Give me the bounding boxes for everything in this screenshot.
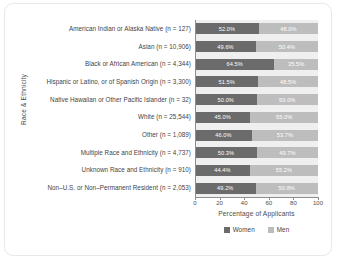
bar-segment-women[interactable]: 52.0% (195, 23, 259, 34)
bar-segment-men[interactable]: 50.4% (256, 41, 318, 52)
bar-segment-men[interactable]: 48.0% (259, 23, 318, 34)
bar-segment-women[interactable]: 50.3% (195, 147, 257, 158)
y-axis-line (195, 20, 196, 197)
bar-row[interactable]: 51.5%48.5% (195, 76, 318, 87)
category-label: Native Hawaiian or Other Pacific Islande… (17, 96, 191, 103)
bar-value-label: 53.7% (277, 132, 293, 138)
bar-segment-men[interactable]: 35.5% (274, 59, 318, 70)
category-label: Non–U.S. or Non–Permanent Resident (n = … (17, 184, 191, 191)
bar-row[interactable]: 46.0%53.7% (195, 130, 318, 141)
legend-item[interactable]: Men (268, 226, 290, 233)
bar-value-label: 50.3% (218, 150, 234, 156)
bar-row[interactable]: 52.0%48.0% (195, 23, 318, 34)
bar-value-label: 50.4% (279, 44, 295, 50)
bar-segment-women[interactable]: 44.4% (195, 165, 250, 176)
bar-row[interactable]: 50.3%49.7% (195, 147, 318, 158)
chart-card: Race & Ethnicity American Indian or Alas… (4, 3, 332, 256)
bar-value-label: 45.0% (214, 114, 230, 120)
bar-value-label: 50.8% (279, 185, 295, 191)
category-axis-labels: American Indian or Alaska Native (n = 12… (17, 20, 191, 197)
category-label: Hispanic or Latino, or of Spanish Origin… (17, 78, 191, 85)
bar-segment-women[interactable]: 46.0% (195, 130, 252, 141)
legend-item[interactable]: Women (224, 226, 255, 233)
category-label: Other (n = 1,089) (17, 131, 191, 138)
bar-row[interactable]: 50.0%50.0% (195, 94, 318, 105)
x-axis-tick-label: 60 (259, 200, 279, 206)
bar-value-label: 49.6% (217, 44, 233, 50)
bar-segment-men[interactable]: 49.7% (257, 147, 318, 158)
category-label: Unknown Race and Ethnicity (n = 910) (17, 166, 191, 173)
category-label: White (n = 25,544) (17, 113, 191, 120)
category-label: American Indian or Alaska Native (n = 12… (17, 25, 191, 32)
legend-label: Men (277, 226, 290, 233)
category-label: Asian (n = 10,906) (17, 43, 191, 50)
bar-value-label: 55.2% (276, 167, 292, 173)
bar-segment-women[interactable]: 64.5% (195, 59, 274, 70)
bar-value-label: 49.2% (217, 185, 233, 191)
x-axis-tick-label: 100 (308, 200, 328, 206)
bar-segment-men[interactable]: 48.5% (258, 76, 318, 87)
bar-segment-women[interactable]: 51.5% (195, 76, 258, 87)
bar-value-label: 52.0% (219, 26, 235, 32)
bar-value-label: 48.5% (280, 79, 296, 85)
bar-row[interactable]: 44.4%55.2% (195, 165, 318, 176)
bar-value-label: 64.5% (226, 61, 242, 67)
chart-figure: Race & Ethnicity American Indian or Alas… (5, 4, 333, 257)
bar-value-label: 49.7% (279, 150, 295, 156)
bar-value-label: 50.0% (218, 97, 234, 103)
bar-segment-women[interactable]: 50.0% (195, 94, 257, 105)
bar-row[interactable]: 64.5%35.5% (195, 59, 318, 70)
bar-value-label: 55.0% (276, 114, 292, 120)
plot-panel: 52.0%48.0%49.6%50.4%64.5%35.5%51.5%48.5%… (195, 20, 318, 197)
bar-value-label: 44.4% (214, 167, 230, 173)
legend-label: Women (233, 226, 255, 233)
bar-segment-men[interactable]: 55.0% (250, 112, 318, 123)
category-label: Multiple Race and Ethnicity (n = 4,737) (17, 149, 191, 156)
bar-segment-men[interactable]: 50.0% (257, 94, 319, 105)
bar-value-label: 46.0% (215, 132, 231, 138)
x-axis-tick-label: 0 (185, 200, 205, 206)
legend-swatch-icon (268, 227, 274, 233)
x-axis-tick-label: 80 (283, 200, 303, 206)
bar-value-label: 51.5% (218, 79, 234, 85)
x-axis-title: Percentage of Applicants (195, 210, 318, 217)
bar-segment-women[interactable]: 49.6% (195, 41, 256, 52)
bar-segment-men[interactable]: 50.8% (256, 183, 318, 194)
bar-value-label: 48.0% (280, 26, 296, 32)
legend-swatch-icon (224, 227, 230, 233)
chart-legend: WomenMen (195, 226, 318, 233)
x-axis-tick-label: 40 (234, 200, 254, 206)
bar-segment-men[interactable]: 53.7% (252, 130, 318, 141)
bar-row[interactable]: 45.0%55.0% (195, 112, 318, 123)
bar-segment-men[interactable]: 55.2% (250, 165, 318, 176)
bar-row[interactable]: 49.2%50.8% (195, 183, 318, 194)
bar-segment-women[interactable]: 49.2% (195, 183, 256, 194)
x-axis-tick-label: 20 (210, 200, 230, 206)
category-label: Black or African American (n = 4,344) (17, 60, 191, 67)
bar-row[interactable]: 49.6%50.4% (195, 41, 318, 52)
bar-segment-women[interactable]: 45.0% (195, 112, 250, 123)
bar-value-label: 35.5% (288, 61, 304, 67)
x-axis-line (195, 197, 318, 198)
bar-value-label: 50.0% (279, 97, 295, 103)
